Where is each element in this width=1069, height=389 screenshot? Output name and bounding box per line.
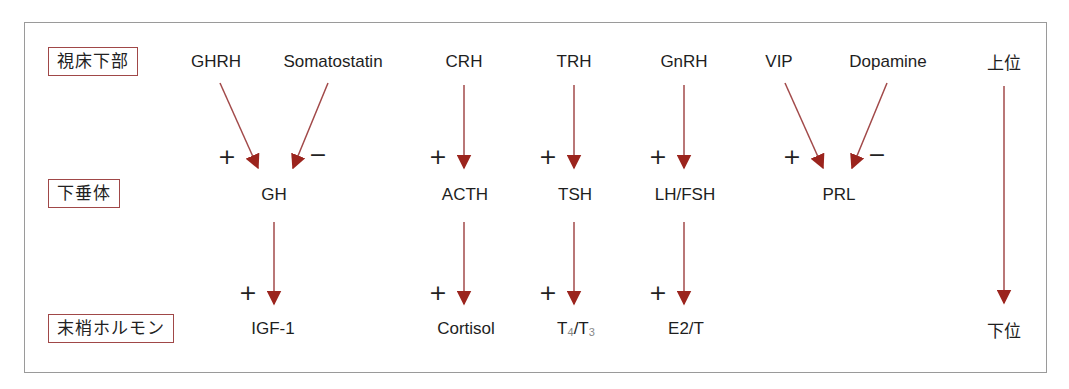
arrow-ghrh-to-gh — [220, 83, 258, 168]
arrow-vip-to-prl — [785, 83, 823, 168]
arrow-dopamine-to-prl — [852, 83, 887, 168]
arrow-layer — [0, 0, 1069, 389]
arrow-somatostatin-to-gh — [293, 83, 328, 168]
